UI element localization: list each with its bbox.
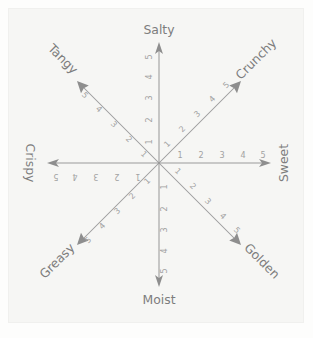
tick-moist-2: 2	[159, 206, 169, 211]
axis-label-salty: Salty	[143, 22, 174, 37]
ticks-crunchy: 1 2 3 4 5	[162, 80, 232, 150]
tick-sweet-2: 2	[198, 150, 203, 160]
axis-label-crunchy: Crunchy	[232, 35, 279, 82]
radar-axes-chart: 1 2 3 4 5 1 2 3 4 5 1 2 3 4 5 1 2 3 4	[0, 0, 313, 338]
axis-label-golden: Golden	[241, 240, 283, 282]
tick-greasy-5: 5	[83, 235, 94, 246]
tick-moist-1: 1	[159, 184, 169, 189]
tick-moist-5: 5	[159, 268, 169, 273]
tick-greasy-4: 4	[97, 221, 108, 232]
axis-label-tangy: Tangy	[44, 40, 81, 77]
ticks-golden: 1 2 3 4 5	[173, 166, 243, 236]
tick-crunchy-4: 4	[207, 94, 218, 105]
tick-crispy-1: 1	[135, 172, 140, 182]
ticks-salty: 1 2 3 4 5	[144, 54, 154, 144]
tick-tangy-2: 2	[124, 134, 135, 145]
tick-tangy-1: 1	[139, 149, 150, 160]
tick-crunchy-3: 3	[192, 109, 203, 120]
tick-crispy-3: 3	[93, 172, 98, 182]
axis-label-greasy: Greasy	[36, 240, 77, 281]
tick-sweet-4: 4	[240, 150, 245, 160]
ticks-greasy: 1 2 3 4 5	[83, 176, 153, 246]
tick-sweet-3: 3	[219, 150, 224, 160]
axis-label-crispy: Crispy	[23, 144, 38, 183]
tick-moist-3: 3	[159, 227, 169, 232]
axis-label-sweet: Sweet	[276, 144, 291, 182]
tick-greasy-1: 1	[142, 176, 153, 187]
tick-sweet-5: 5	[260, 150, 265, 160]
tick-golden-2: 2	[188, 181, 199, 192]
axis-lines-group	[53, 48, 265, 281]
ticks-moist: 1 2 3 4 5	[159, 184, 169, 273]
axis-line-golden	[159, 163, 236, 240]
tick-crunchy-5: 5	[221, 80, 232, 91]
ticks-tangy: 1 2 3 4 5	[80, 90, 150, 160]
tick-moist-4: 4	[159, 248, 169, 253]
tick-tangy-4: 4	[94, 104, 105, 115]
ticks-sweet: 1 2 3 4 5	[177, 150, 265, 160]
tick-salty-3: 3	[144, 95, 154, 100]
tick-crunchy-2: 2	[177, 124, 188, 135]
tick-salty-4: 4	[144, 74, 154, 79]
diagram-canvas: 1 2 3 4 5 1 2 3 4 5 1 2 3 4 5 1 2 3 4	[0, 0, 313, 338]
tick-tangy-3: 3	[109, 119, 120, 130]
tick-golden-3: 3	[203, 196, 214, 207]
tick-salty-2: 2	[144, 117, 154, 122]
tick-crispy-5: 5	[53, 172, 58, 182]
tick-crispy-2: 2	[114, 172, 119, 182]
tick-golden-1: 1	[173, 166, 184, 177]
tick-greasy-2: 2	[127, 191, 138, 202]
axis-label-moist: Moist	[142, 292, 175, 307]
tick-salty-1: 1	[144, 139, 154, 144]
tick-golden-4: 4	[218, 211, 229, 222]
tick-greasy-3: 3	[112, 206, 123, 217]
tick-crispy-4: 4	[72, 172, 77, 182]
tick-crunchy-1: 1	[162, 139, 173, 150]
ticks-crispy: 1 2 3 4 5	[53, 172, 140, 182]
tick-sweet-1: 1	[177, 150, 182, 160]
tick-salty-5: 5	[144, 54, 154, 59]
